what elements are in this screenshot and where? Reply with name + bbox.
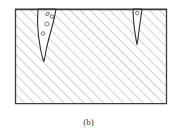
figure-caption: (b) xyxy=(83,117,94,127)
cross-section-figure: (b) xyxy=(0,0,177,138)
figure-container: (b) xyxy=(0,0,177,138)
